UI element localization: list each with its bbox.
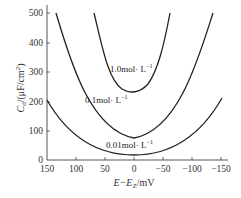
svg-text:0: 0 [132, 164, 137, 174]
label-0-01-mol: 0.01mol· L−1 [106, 139, 153, 150]
svg-text:−150: −150 [211, 164, 231, 174]
svg-text:−100: −100 [182, 164, 202, 174]
y-tick-labels: 500 400 300 200 100 0 [29, 8, 44, 165]
svg-text:150: 150 [40, 164, 55, 174]
curve-1-0-mol [94, 13, 170, 92]
x-tick-labels: 150 100 50 0 −50 −100 −150 [40, 164, 231, 174]
svg-text:300: 300 [29, 67, 44, 77]
svg-text:500: 500 [29, 8, 44, 18]
svg-text:50: 50 [100, 164, 110, 174]
capacitance-chart: 500 400 300 200 100 0 150 100 50 0 −50 −… [0, 0, 241, 198]
svg-text:200: 200 [29, 97, 44, 107]
label-1-0-mol: 1.0mol· L−1 [110, 63, 152, 74]
svg-text:100: 100 [69, 164, 84, 174]
svg-text:100: 100 [29, 126, 44, 136]
svg-text:−50: −50 [156, 164, 171, 174]
x-axis-title: E−EZ/mV [112, 177, 155, 190]
label-0-1-mol: 0.1mol· L−1 [85, 94, 127, 105]
svg-text:400: 400 [29, 38, 44, 48]
y-axis-title: Cd/(μF/cm2) [14, 63, 28, 112]
curve-0-1-mol [56, 13, 213, 138]
